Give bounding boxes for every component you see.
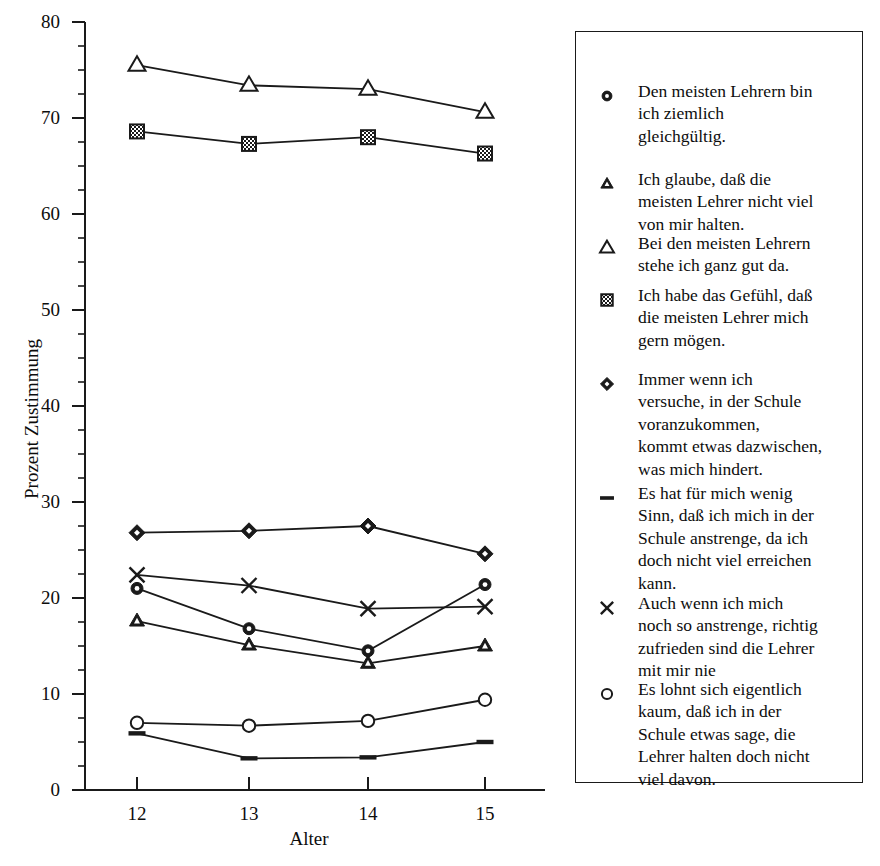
legend-item-label: Auch wenn ich mich noch so anstrenge, ri… (638, 592, 830, 682)
legend-item-label: Immer wenn ich versuche, in der Schule v… (638, 368, 834, 480)
series-group (129, 56, 494, 760)
series-7 (131, 694, 491, 732)
legend-item-label: Ich glaube, daß die meisten Lehrer nicht… (638, 168, 825, 235)
x-tick-label: 14 (338, 804, 398, 823)
x-tick-label: 15 (455, 804, 515, 823)
y-tick-label: 80 (14, 12, 60, 31)
series-4 (129, 518, 493, 562)
y-tick-label: 20 (14, 588, 60, 607)
legend-item[interactable]: Ich glaube, daß die meisten Lehrer nicht… (576, 168, 864, 235)
open-triangle-icon (576, 232, 638, 260)
y-tick-label: 0 (14, 780, 60, 799)
y-axis-title: Prozent Zustimmung (21, 299, 43, 539)
filled-circle-icon (576, 80, 638, 108)
legend-item[interactable]: Ich habe das Gefühl, daß die meisten Leh… (576, 284, 864, 351)
legend-box: Den meisten Lehrern bin ich ziemlich gle… (575, 31, 863, 783)
x-tick-label: 13 (219, 804, 279, 823)
legend-item-label: Es hat für mich wenig Sinn, daß ich mich… (638, 482, 826, 594)
filled-diamond-icon (576, 368, 638, 396)
legend-item[interactable]: Es lohnt sich eigentlich kaum, daß ich i… (576, 678, 864, 790)
legend-item-label: Bei den meisten Lehrern stehe ich ganz g… (638, 232, 823, 277)
filled-triangle-icon (576, 168, 638, 196)
chart-root: 80706050403020100 12131415 Prozent Zusti… (0, 0, 880, 866)
legend-item-label: Es lohnt sich eigentlich kaum, daß ich i… (638, 678, 822, 790)
legend-item-label: Ich habe das Gefühl, daß die meisten Leh… (638, 284, 824, 351)
x-axis-title: Alter (209, 828, 409, 850)
legend-item[interactable]: Es hat für mich wenig Sinn, daß ich mich… (576, 482, 864, 594)
series-2 (129, 56, 494, 118)
legend-item-label: Den meisten Lehrern bin ich ziemlich gle… (638, 80, 824, 147)
series-5 (129, 731, 494, 760)
series-3 (130, 124, 492, 160)
y-tick-label: 60 (14, 204, 60, 223)
y-tick-label: 10 (14, 684, 60, 703)
legend-item[interactable]: Immer wenn ich versuche, in der Schule v… (576, 368, 864, 480)
y-tick-label: 70 (14, 108, 60, 127)
series-0 (131, 579, 491, 657)
legend-item[interactable]: Den meisten Lehrern bin ich ziemlich gle… (576, 80, 864, 147)
x-tick-label: 12 (107, 804, 167, 823)
series-6 (130, 567, 493, 616)
dash-icon (576, 482, 638, 510)
legend-item[interactable]: Bei den meisten Lehrern stehe ich ganz g… (576, 232, 864, 277)
legend-item[interactable]: Auch wenn ich mich noch so anstrenge, ri… (576, 592, 864, 682)
hatched-square-icon (576, 284, 638, 312)
x-cross-icon (576, 592, 638, 620)
open-circle-icon (576, 678, 638, 706)
